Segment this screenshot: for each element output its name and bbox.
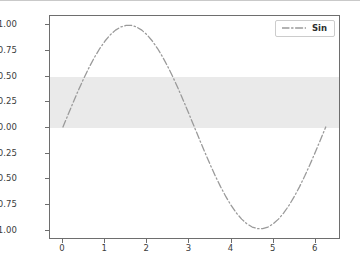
y-tick-label: −0.75 [0, 199, 17, 209]
y-tick-mark [45, 230, 49, 231]
sine-line-series [63, 25, 326, 228]
y-tick-mark [45, 178, 49, 179]
y-tick-mark [45, 50, 49, 51]
chart-legend[interactable]: Sin [275, 20, 335, 37]
x-tick-label: 6 [312, 243, 317, 253]
y-tick-mark [45, 76, 49, 77]
x-tick-label: 2 [144, 243, 149, 253]
sine-curve-svg [50, 16, 339, 238]
y-tick-mark [45, 204, 49, 205]
y-tick-label: 0.50 [0, 71, 17, 81]
y-tick-mark [45, 153, 49, 154]
x-tick-label: 5 [270, 243, 275, 253]
y-tick-label: 0.25 [0, 96, 17, 106]
x-tick-label: 3 [186, 243, 191, 253]
y-tick-label: −0.25 [0, 148, 17, 158]
y-tick-label: 0.00 [0, 122, 17, 132]
x-tick-label: 1 [101, 243, 106, 253]
x-tick-mark [62, 239, 63, 243]
x-tick-mark [273, 239, 274, 243]
y-tick-mark [45, 24, 49, 25]
x-tick-mark [315, 239, 316, 243]
y-tick-label: 0.75 [0, 45, 17, 55]
x-tick-mark [104, 239, 105, 243]
plot-axes-area: Sin [49, 15, 340, 239]
y-tick-mark [45, 101, 49, 102]
legend-line-sample [282, 25, 306, 31]
y-tick-label: −0.50 [0, 173, 17, 183]
legend-label-sin: Sin [312, 24, 327, 33]
y-tick-mark [45, 127, 49, 128]
x-tick-mark [188, 239, 189, 243]
x-tick-label: 4 [228, 243, 233, 253]
x-tick-mark [146, 239, 147, 243]
y-tick-label: 1.00 [0, 19, 17, 29]
matplotlib-figure: Sin 1.000.750.500.250.00−0.25−0.50−0.75−… [0, 0, 360, 265]
y-tick-label: −1.00 [0, 225, 17, 235]
x-tick-mark [231, 239, 232, 243]
x-tick-label: 0 [59, 243, 64, 253]
